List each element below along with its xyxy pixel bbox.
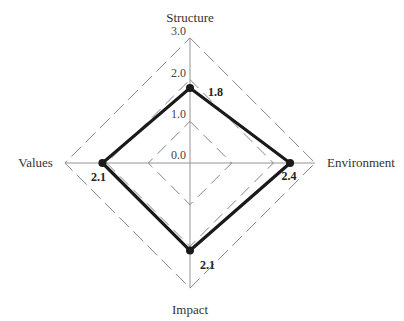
axis-label-structure: Structure [166,10,214,25]
data-point [186,247,194,255]
value-label: 1.8 [208,85,223,99]
value-label: 2.1 [91,170,106,184]
axis-label-impact: Impact [172,302,208,317]
axis-label-values: Values [18,155,53,170]
radial-tick-label: 1.0 [171,107,186,121]
axis-label-environment: Environment [327,155,395,170]
data-point [186,84,194,92]
radial-tick-label: 3.0 [171,24,186,38]
data-point [286,159,294,167]
radial-tick-label: 2.0 [171,66,186,80]
value-label: 2.4 [282,169,297,183]
value-label: 2.1 [200,258,215,272]
radar-chart: 0.01.02.03.0StructureEnvironmentImpactVa… [0,0,404,321]
radial-tick-label: 0.0 [171,148,186,162]
data-point [98,159,106,167]
series-polygon [102,88,290,251]
